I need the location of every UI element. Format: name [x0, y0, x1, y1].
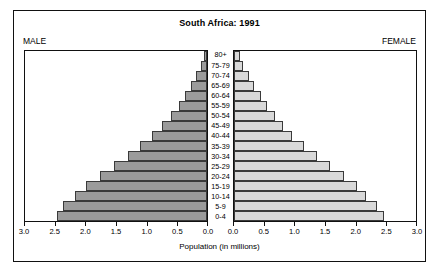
- male-axis-tick-0.0: [207, 222, 208, 226]
- male-bar-50-54[interactable]: [171, 111, 207, 121]
- bar-row: [234, 71, 416, 81]
- female-bar-20-24[interactable]: [234, 171, 344, 181]
- male-bar-25-29[interactable]: [114, 161, 207, 171]
- bar-row: [234, 51, 416, 61]
- male-bar-45-49[interactable]: [162, 121, 207, 131]
- male-bar-55-59[interactable]: [179, 101, 208, 111]
- age-label-30-34: 30-34: [208, 151, 233, 161]
- female-axis-tick-3.0: [416, 222, 417, 226]
- age-label-55-59: 55-59: [208, 101, 233, 111]
- male-axis-ticklabel-1.0: 1.0: [141, 227, 152, 236]
- male-bar-0-4[interactable]: [57, 211, 207, 221]
- female-axis-tick-2.0: [356, 222, 357, 226]
- bar-row: [25, 121, 207, 131]
- female-axis-ticklabel-0.5: 0.5: [258, 227, 269, 236]
- female-bar-5-9[interactable]: [234, 201, 377, 211]
- bar-row: [25, 101, 207, 111]
- male-axis-tick-1.5: [116, 222, 117, 226]
- female-axis-ticklabel-1.5: 1.5: [320, 227, 331, 236]
- chart-title: South Africa: 1991: [14, 18, 425, 28]
- age-label-20-24: 20-24: [208, 171, 233, 181]
- female-bar-15-19[interactable]: [234, 181, 357, 191]
- age-label-65-69: 65-69: [208, 80, 233, 90]
- female-axis-ticklabel-3.0: 3.0: [412, 227, 423, 236]
- male-bar-20-24[interactable]: [100, 171, 207, 181]
- age-label-5-9: 5-9: [208, 202, 233, 212]
- bar-row: [25, 211, 207, 221]
- male-axis-ticklabel-2.0: 2.0: [80, 227, 91, 236]
- bar-row: [234, 111, 416, 121]
- male-axis-tick-2.0: [85, 222, 86, 226]
- male-axis-ticklabel-0.5: 0.5: [172, 227, 183, 236]
- female-bar-50-54[interactable]: [234, 111, 275, 121]
- male-bar-75-79[interactable]: [201, 61, 207, 71]
- age-label-60-64: 60-64: [208, 90, 233, 100]
- male-axis-tick-1.0: [147, 222, 148, 226]
- female-axis-ticklabel-2.0: 2.0: [350, 227, 361, 236]
- bar-row: [25, 141, 207, 151]
- male-axis-ticklabel-2.5: 2.5: [49, 227, 60, 236]
- bar-row: [25, 61, 207, 71]
- female-bar-75-79[interactable]: [234, 61, 243, 71]
- female-bar-55-59[interactable]: [234, 101, 267, 111]
- age-label-80+: 80+: [208, 50, 233, 60]
- female-axis-tick-2.5: [386, 222, 387, 226]
- male-bar-5-9[interactable]: [63, 201, 207, 211]
- male-axis-ticklabel-1.5: 1.5: [111, 227, 122, 236]
- female-bar-35-39[interactable]: [234, 141, 304, 151]
- female-bar-60-64[interactable]: [234, 91, 261, 101]
- female-bar-80+[interactable]: [234, 51, 240, 61]
- female-bar-30-34[interactable]: [234, 151, 317, 161]
- male-bar-stack: [25, 51, 207, 221]
- female-axis-tick-0.0: [233, 222, 234, 226]
- bar-row: [234, 121, 416, 131]
- bar-row: [25, 131, 207, 141]
- female-axis-ticklabel-1.0: 1.0: [289, 227, 300, 236]
- female-bar-0-4[interactable]: [234, 211, 384, 221]
- age-label-70-74: 70-74: [208, 70, 233, 80]
- male-bar-40-44[interactable]: [152, 131, 207, 141]
- female-bar-65-69[interactable]: [234, 81, 254, 91]
- male-axis-tick-2.5: [55, 222, 56, 226]
- bar-row: [234, 161, 416, 171]
- female-bar-70-74[interactable]: [234, 71, 249, 81]
- male-bar-10-14[interactable]: [75, 191, 207, 201]
- bar-row: [234, 141, 416, 151]
- male-bar-15-19[interactable]: [86, 181, 207, 191]
- age-label-75-79: 75-79: [208, 60, 233, 70]
- male-bar-65-69[interactable]: [191, 81, 207, 91]
- male-axis-tick-0.5: [177, 222, 178, 226]
- age-label-0-4: 0-4: [208, 212, 233, 222]
- female-bar-40-44[interactable]: [234, 131, 292, 141]
- male-legend-label: MALE: [23, 36, 46, 46]
- age-label-45-49: 45-49: [208, 121, 233, 131]
- age-label-35-39: 35-39: [208, 141, 233, 151]
- age-label-10-14: 10-14: [208, 192, 233, 202]
- bar-row: [234, 61, 416, 71]
- male-bar-70-74[interactable]: [196, 71, 207, 81]
- bar-row: [234, 211, 416, 221]
- bar-row: [25, 91, 207, 101]
- bar-row: [25, 51, 207, 61]
- chart-frame: South Africa: 1991 MALE FEMALE 0-45-910-…: [13, 10, 426, 262]
- male-bar-80+[interactable]: [204, 51, 207, 61]
- female-axis-tick-1.0: [294, 222, 295, 226]
- male-bar-60-64[interactable]: [185, 91, 207, 101]
- female-legend-label: FEMALE: [382, 36, 416, 46]
- x-axis-title: Population (in millions): [14, 242, 425, 251]
- male-bar-30-34[interactable]: [128, 151, 207, 161]
- female-bar-45-49[interactable]: [234, 121, 283, 131]
- male-bar-35-39[interactable]: [140, 141, 207, 151]
- male-bars-panel: [24, 50, 208, 222]
- male-x-axis: 3.02.52.01.51.00.50.0: [24, 222, 208, 238]
- female-bar-10-14[interactable]: [234, 191, 366, 201]
- bar-row: [25, 161, 207, 171]
- bar-row: [25, 181, 207, 191]
- bar-row: [25, 71, 207, 81]
- bar-row: [234, 191, 416, 201]
- bar-row: [25, 81, 207, 91]
- female-axis-ticklabel-2.5: 2.5: [381, 227, 392, 236]
- female-bar-25-29[interactable]: [234, 161, 330, 171]
- bar-row: [234, 131, 416, 141]
- male-axis-ticklabel-3.0: 3.0: [19, 227, 30, 236]
